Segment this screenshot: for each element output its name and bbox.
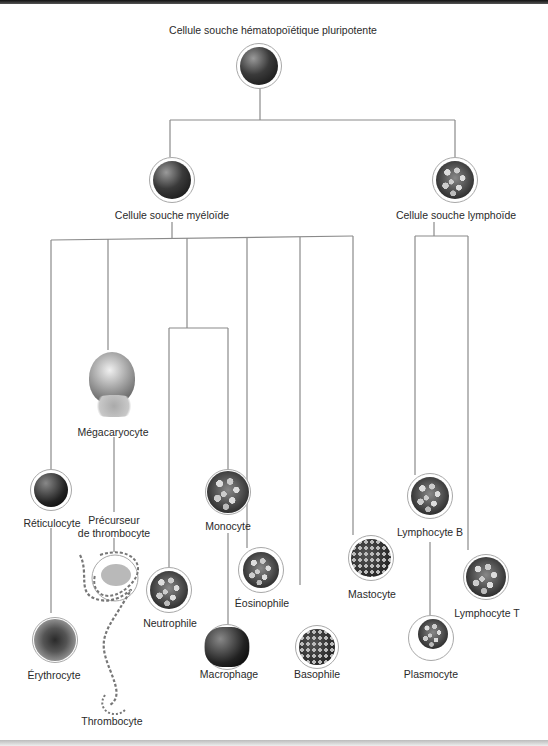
plasmocyte-icon [408,615,454,661]
neutrophil-label: Neutrophile [143,617,197,630]
macrophage-icon [204,624,250,670]
myeloid-stem-cell-icon [149,157,195,203]
erythrocyte-label: Érythrocyte [27,669,80,682]
erythrocyte-icon [32,617,78,663]
lymphocyte-b-icon [407,473,453,519]
lymphoid-stem-cell-label: Cellule souche lymphoïde [396,209,516,222]
mastocyte-label: Mastocyte [348,588,396,601]
monocyte-icon [205,469,251,515]
basophil-label: Basophile [294,668,340,681]
bottom-border [0,740,548,746]
macrophage-label: Macrophage [200,668,258,681]
lymphocyte-t-icon [463,554,509,600]
megakaryocyte-base-icon [92,395,136,417]
lymphocyte-t-label: Lymphocyte T [454,607,519,620]
eosinophil-label: Éosinophile [235,597,289,610]
thrombocyte-label: Thrombocyte [81,715,142,728]
eosinophil-icon [238,547,284,593]
megakaryocyte-label: Mégacaryocyte [77,426,148,439]
pluripotent-stem-cell-icon [236,43,282,89]
monocyte-label: Monocyte [205,520,251,533]
root-stem-cell-label: Cellule souche hématopoïétique pluripote… [169,24,377,37]
neutrophil-icon [146,567,192,613]
plasmocyte-label: Plasmocyte [404,668,458,681]
thrombocyte-precursor-label: Précurseur de thrombocyte [78,514,150,540]
basophil-icon [295,625,339,669]
lymphoid-stem-cell-icon [432,157,478,203]
lymphocyte-b-label: Lymphocyte B [397,526,463,539]
mastocyte-icon [348,535,394,581]
thrombocyte-precursor-icon [70,545,160,725]
reticulocyte-label: Réticulocyte [23,517,80,530]
myeloid-stem-cell-label: Cellule souche myéloïde [115,209,229,222]
reticulocyte-icon [30,469,72,511]
